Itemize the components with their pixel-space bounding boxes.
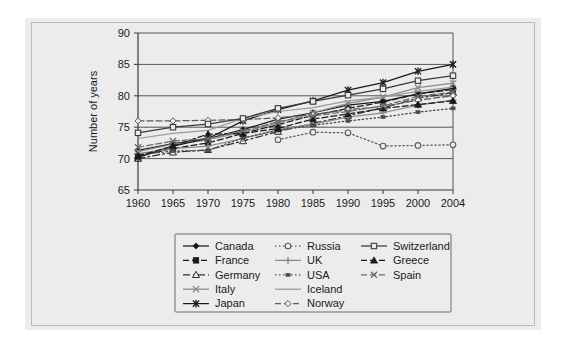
x-axis-tick-label: 2004: [441, 197, 465, 209]
x-axis-tick-label: 1970: [196, 197, 220, 209]
marker-small-filled: [346, 119, 350, 122]
marker-open-circle: [310, 129, 316, 135]
legend-label: Spain: [393, 269, 421, 281]
legend-label: Switzerland: [393, 240, 450, 252]
marker-open-square: [275, 106, 280, 111]
marker-small-filled: [416, 111, 420, 114]
x-axis-tick-label: 1980: [266, 197, 290, 209]
x-axis-tick-label: 1965: [161, 197, 185, 209]
marker-open-square: [170, 125, 175, 130]
marker-small-filled: [171, 150, 175, 153]
marker-small-filled: [381, 116, 385, 119]
series-iceland: [138, 87, 453, 138]
series-line: [138, 64, 453, 157]
marker-open-circle: [450, 142, 456, 148]
marker-open-circle: [275, 137, 281, 143]
legend-label: Germany: [215, 269, 261, 281]
line-chart: 6570758085901960196519701975198019851990…: [25, 18, 541, 330]
marker-open-square: [310, 99, 315, 104]
marker-open-circle: [415, 143, 421, 149]
y-axis-tick-label: 80: [118, 90, 130, 102]
y-axis-tick-label: 75: [118, 121, 130, 133]
y-axis-tick-label: 85: [118, 58, 130, 70]
legend-marker-filled-square: [193, 258, 198, 263]
series-line: [138, 87, 453, 138]
series-russia: [275, 129, 456, 148]
y-axis-tick-label: 70: [118, 153, 130, 165]
x-axis-tick-label: 1990: [336, 197, 360, 209]
marker-open-square: [205, 121, 210, 126]
y-axis-title: Number of years: [87, 70, 99, 152]
series-line: [278, 132, 453, 146]
legend-label: UK: [307, 254, 323, 266]
legend-label: Iceland: [307, 283, 342, 295]
marker-open-square: [135, 130, 140, 135]
marker-open-diamond: [170, 118, 176, 124]
legend-label: Russia: [307, 240, 342, 252]
series-switzerland: [135, 73, 455, 136]
legend-label: Greece: [393, 254, 429, 266]
marker-small-filled: [311, 124, 315, 127]
series-norway: [135, 93, 456, 124]
legend-marker-small-filled: [286, 273, 290, 276]
y-axis-tick-label: 90: [118, 27, 130, 39]
legend-label: Norway: [307, 297, 345, 309]
x-axis-tick-label: 1985: [301, 197, 325, 209]
y-axis-tick-label: 65: [118, 184, 130, 196]
marker-open-square: [380, 86, 385, 91]
legend-label: USA: [307, 269, 330, 281]
x-axis-tick-label: 1975: [231, 197, 255, 209]
legend-label: Canada: [215, 240, 254, 252]
figure-root: 6570758085901960196519701975198019851990…: [0, 0, 566, 348]
marker-small-filled: [241, 136, 245, 139]
legend-label: Japan: [215, 297, 245, 309]
marker-open-circle: [345, 130, 351, 136]
marker-small-filled: [451, 107, 455, 110]
marker-open-square: [415, 78, 420, 83]
x-axis-tick-label: 2000: [406, 197, 430, 209]
marker-small-filled: [206, 149, 210, 152]
marker-open-diamond: [135, 118, 141, 124]
marker-open-square: [240, 116, 245, 121]
marker-open-square: [345, 92, 350, 97]
legend-label: France: [215, 254, 249, 266]
series-usa: [136, 107, 455, 156]
marker-open-circle: [380, 143, 386, 149]
legend-marker-open-square: [371, 243, 376, 248]
x-axis-tick-label: 1960: [126, 197, 150, 209]
marker-open-square: [450, 73, 455, 78]
x-axis-tick-label: 1995: [371, 197, 395, 209]
legend-marker-open-circle: [285, 243, 291, 249]
legend-label: Italy: [215, 283, 236, 295]
